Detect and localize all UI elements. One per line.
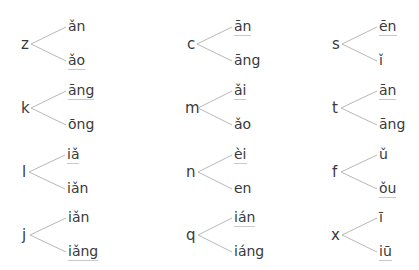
pinyin-group: c ān āng <box>187 16 317 72</box>
final-option-top[interactable]: ān <box>379 82 396 100</box>
initial-consonant: t <box>332 100 338 116</box>
final-option-bottom[interactable]: ǎo <box>68 52 85 70</box>
final-option-top[interactable]: āng <box>68 82 94 100</box>
final-option-bottom[interactable]: ǒu <box>379 180 396 198</box>
final-option-top[interactable]: iǎ <box>67 146 79 164</box>
branch-lines <box>332 16 419 72</box>
initial-consonant: j <box>22 227 26 243</box>
initial-consonant: f <box>332 164 337 180</box>
initial-consonant: m <box>185 100 200 116</box>
initial-consonant: q <box>186 227 196 243</box>
pinyin-group: n èi en <box>186 144 316 200</box>
pinyin-group: m ǎi ǎo <box>185 80 315 136</box>
pinyin-group: k āng ōng <box>21 80 151 136</box>
pinyin-group: t ān āng <box>332 80 419 136</box>
final-option-bottom[interactable]: āng <box>234 52 260 69</box>
initial-consonant: z <box>21 36 29 52</box>
pinyin-group: s ēn ǐ <box>332 16 419 72</box>
branch-lines <box>332 144 419 200</box>
pinyin-group: j iǎn iǎng <box>22 207 152 263</box>
final-option-top[interactable]: ī <box>379 209 383 226</box>
pinyin-group: x ī iū <box>331 207 419 263</box>
final-option-bottom[interactable]: iáng <box>234 243 264 260</box>
initial-consonant: c <box>187 36 195 52</box>
final-option-top[interactable]: ēn <box>379 18 397 36</box>
final-option-bottom[interactable]: en <box>234 180 252 197</box>
initial-consonant: s <box>332 36 340 52</box>
branch-lines <box>331 207 419 263</box>
final-option-top[interactable]: ǎn <box>68 18 85 35</box>
pinyin-group: l iǎ iǎn <box>22 144 152 200</box>
final-option-top[interactable]: ān <box>234 18 251 36</box>
initial-consonant: l <box>22 164 26 180</box>
pinyin-group: q ián iáng <box>186 207 316 263</box>
initial-consonant: n <box>186 164 196 180</box>
final-option-bottom[interactable]: āng <box>379 116 405 133</box>
final-option-top[interactable]: iǎn <box>68 209 89 226</box>
initial-consonant: x <box>331 227 340 243</box>
final-option-top[interactable]: ǔ <box>379 146 388 163</box>
final-option-bottom[interactable]: iǎng <box>68 243 98 261</box>
initial-consonant: k <box>21 100 30 116</box>
final-option-bottom[interactable]: iǎn <box>67 180 88 197</box>
pinyin-group: z ǎn ǎo <box>21 16 151 72</box>
branch-lines <box>21 16 151 72</box>
final-option-bottom[interactable]: iū <box>379 243 392 261</box>
final-option-bottom[interactable]: ōng <box>68 116 94 133</box>
final-option-top[interactable]: ǎi <box>234 82 246 100</box>
final-option-bottom[interactable]: ǎo <box>234 116 251 133</box>
branch-lines <box>332 80 419 136</box>
final-option-top[interactable]: èi <box>234 146 247 164</box>
final-option-top[interactable]: ián <box>234 209 255 227</box>
final-option-bottom[interactable]: ǐ <box>379 52 383 69</box>
pinyin-group: f ǔ ǒu <box>332 144 419 200</box>
